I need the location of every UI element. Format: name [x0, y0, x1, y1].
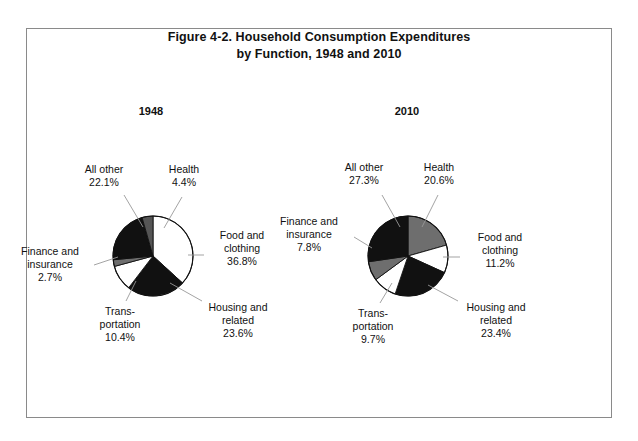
- slice-label-health-1948: Health 4.4%: [154, 163, 214, 189]
- leader-lines-1948: [94, 195, 204, 301]
- leader-line-finance: [94, 257, 118, 265]
- pie-slice: [113, 218, 153, 260]
- leader-line-transportation: [380, 283, 392, 303]
- leader-line-all-other: [382, 195, 400, 227]
- pie-slice: [395, 256, 444, 296]
- pie-slices-1948: [113, 216, 193, 296]
- pie-chart-1948: 1948 All other 22.1% Health 4.4% Food an…: [6, 105, 296, 375]
- slice-label-all-other-1948: All other 22.1%: [64, 163, 144, 189]
- slice-label-food-clothing-2010: Food and clothing 11.2%: [458, 231, 542, 270]
- chart-year-label-2010: 2010: [262, 105, 552, 117]
- chart-year-label-1948: 1948: [6, 105, 296, 117]
- leader-line-health: [422, 195, 438, 227]
- pie-slice: [113, 256, 153, 266]
- pie-slice: [129, 256, 183, 296]
- slice-label-finance-2010: Finance and insurance 7.8%: [264, 215, 354, 254]
- leader-line-housing: [170, 283, 202, 301]
- pie-outline: [368, 216, 448, 296]
- pie-chart-2010: 2010 All other 27.3% Health 20.6% Food a…: [262, 105, 552, 375]
- pie-slice: [408, 216, 446, 256]
- pie-slices-2010: [368, 216, 448, 296]
- figure-title: Figure 4-2. Household Consumption Expend…: [0, 29, 638, 63]
- figure-title-line-2: by Function, 1948 and 2010: [0, 46, 638, 63]
- slice-label-health-2010: Health 20.6%: [408, 161, 470, 187]
- pie-slice: [153, 216, 193, 283]
- figure-title-line-1: Figure 4-2. Household Consumption Expend…: [0, 29, 638, 46]
- slice-label-finance-1948: Finance and insurance 2.7%: [6, 245, 94, 284]
- pie-slice: [408, 245, 448, 273]
- leader-line-housing: [428, 285, 458, 301]
- leader-line-health: [164, 197, 182, 228]
- slice-label-housing-2010: Housing and related 23.4%: [450, 301, 542, 340]
- leader-line-finance: [354, 237, 372, 248]
- slice-label-all-other-2010: All other 27.3%: [324, 161, 404, 187]
- pie-slice: [368, 256, 408, 280]
- pie-slice: [114, 256, 153, 288]
- pie-slice: [368, 216, 408, 262]
- slice-label-transportation-1948: Trans- portation 10.4%: [80, 305, 160, 344]
- leader-lines-2010: [354, 195, 460, 303]
- leader-line-all-other: [124, 195, 143, 227]
- leader-line-transportation: [126, 281, 136, 301]
- slice-label-transportation-2010: Trans- portation 9.7%: [332, 307, 414, 346]
- pie-outline: [113, 216, 193, 296]
- pie-slice: [376, 256, 408, 294]
- pie-slice: [142, 216, 153, 256]
